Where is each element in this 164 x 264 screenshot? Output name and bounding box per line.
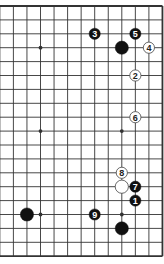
move-number: 1 [133, 196, 138, 206]
white-stone-6: 6 [130, 112, 141, 123]
black-stone [115, 41, 128, 54]
star-point [39, 213, 43, 217]
black-stone-1: 1 [130, 195, 141, 206]
white-stone-4: 4 [143, 42, 154, 53]
black-stone-9: 9 [89, 209, 100, 220]
move-number: 2 [133, 71, 138, 81]
black-stone [20, 208, 33, 221]
black-stone-7: 7 [130, 181, 141, 192]
black-stone-3: 3 [89, 28, 100, 39]
black-stone-5: 5 [130, 28, 141, 39]
star-point [120, 213, 124, 217]
move-number: 9 [92, 210, 97, 220]
go-board: 123456789 [0, 0, 164, 264]
move-number: 5 [133, 29, 138, 39]
move-number: 6 [133, 113, 138, 123]
black-stone [115, 222, 128, 235]
white-stone-8: 8 [116, 167, 127, 178]
move-number: 4 [146, 43, 151, 53]
star-point [39, 129, 43, 133]
move-number: 8 [119, 168, 124, 178]
move-number: 7 [133, 182, 138, 192]
star-point [39, 46, 43, 50]
move-number: 3 [92, 29, 97, 39]
white-stone [115, 180, 128, 193]
star-point [120, 129, 124, 133]
white-stone-2: 2 [130, 70, 141, 81]
